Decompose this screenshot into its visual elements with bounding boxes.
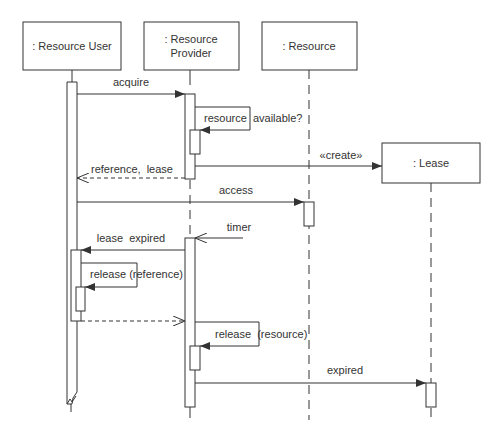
message-label: timer (227, 221, 252, 233)
participant-label: : Resource User (32, 40, 112, 52)
message-release-reference: release (reference) (81, 263, 183, 287)
message-label: resource available? (204, 112, 302, 124)
message-reference-lease: reference, lease (77, 163, 185, 178)
participant-resource: : Resource (262, 22, 357, 70)
participant-resource-provider: : Resource Provider (144, 22, 239, 70)
message-acquire: acquire (77, 76, 185, 94)
message-label: release (resource) (215, 328, 307, 340)
sequence-diagram: : Resource User : Resource Provider : Re… (0, 0, 501, 440)
activation-resource (304, 202, 314, 226)
message-timer: timer (195, 221, 252, 238)
participant-resource-user: : Resource User (23, 22, 121, 70)
message-label: access (219, 184, 254, 196)
activation-resource-provider-self-1 (190, 130, 200, 154)
participant-label-line1: : Resource (164, 33, 217, 45)
message-label: lease expired (97, 232, 166, 244)
participant-label: : Lease (413, 157, 449, 169)
participant-lease: : Lease (382, 143, 480, 183)
activation-resource-user (67, 82, 77, 404)
message-label: acquire (113, 76, 149, 88)
participant-box (144, 22, 239, 70)
message-lease-expired: lease expired (81, 232, 185, 250)
activation-resource-user-self (76, 287, 85, 311)
message-release-resource: release (resource) (195, 322, 307, 346)
message-label: reference, lease (91, 163, 173, 175)
activation-resource-provider-2 (185, 238, 195, 407)
message-create: «create» (195, 149, 382, 166)
participant-label: : Resource (282, 40, 335, 52)
participant-label-line2: Provider (171, 47, 212, 59)
activation-lease (426, 383, 436, 407)
message-resource-available: resource available? (195, 107, 302, 130)
message-label: «create» (320, 149, 363, 161)
message-label: expired (327, 364, 363, 376)
message-label: release (reference) (90, 268, 183, 280)
activation-resource-provider-self-2 (190, 346, 200, 370)
message-expired: expired (195, 364, 426, 383)
